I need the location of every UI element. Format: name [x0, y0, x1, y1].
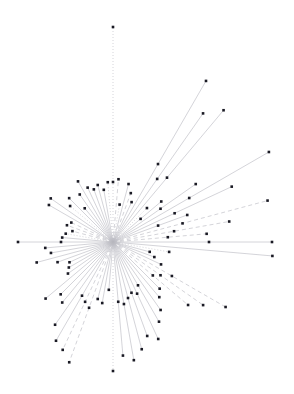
radial-plot-canvas	[0, 0, 294, 394]
radial-plot-figure	[0, 0, 294, 394]
